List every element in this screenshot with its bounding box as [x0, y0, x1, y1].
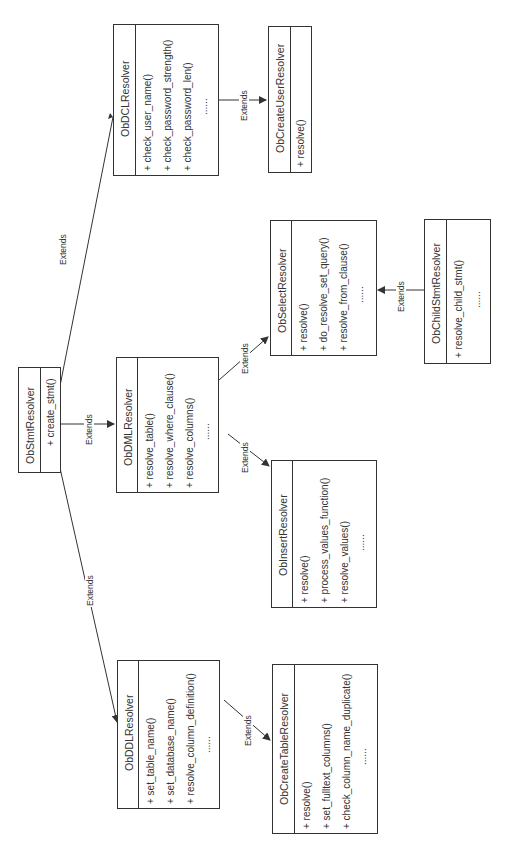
- edge-label-dml-insert: Extends: [240, 441, 250, 474]
- class-methods: + resolve() + do_resolve_set_query() + r…: [292, 221, 376, 355]
- class-ob-insert-resolver[interactable]: ObInsertResolver + resolve() + process_v…: [271, 460, 377, 608]
- class-name: ObCreateUserResolver: [274, 44, 286, 153]
- method: + set_fulltext_columns(): [321, 723, 333, 829]
- method-ellipsis: ......: [200, 423, 212, 440]
- uml-diagram-canvas: Extends Extends Extends Extends Extends …: [0, 0, 506, 843]
- class-header: ObDCLResolver: [114, 25, 136, 175]
- method-ellipsis: ......: [357, 748, 369, 765]
- method-ellipsis: ......: [355, 534, 367, 551]
- method: + resolve(): [295, 119, 307, 167]
- class-ob-child-stmt-resolver[interactable]: ObChildStmtResolver + resolve_child_stmt…: [424, 219, 491, 364]
- method: + resolve_columns(): [184, 398, 196, 488]
- class-name: ObDCLResolver: [119, 61, 131, 137]
- method: + set_table_name(): [145, 718, 157, 804]
- method: + resolve_column_definition(): [185, 673, 197, 804]
- method: + process_values_function(): [319, 478, 331, 603]
- method: + check_password_len(): [182, 62, 194, 171]
- method: + resolve_table(): [144, 413, 156, 488]
- class-name: ObDMLResolver: [122, 388, 134, 466]
- edge-label-childstmt-select: Extends: [396, 280, 406, 313]
- class-name: ObInsertResolver: [277, 494, 289, 576]
- class-ob-ddl-resolver[interactable]: ObDDLResolver + set_table_name() + set_d…: [117, 660, 220, 809]
- method: + do_resolve_set_query(): [318, 237, 330, 351]
- class-header: ObDDLResolver: [118, 661, 139, 808]
- method-ellipsis: ......: [471, 291, 483, 308]
- method: + set_database_name(): [165, 698, 177, 804]
- class-methods: + resolve_child_stmt() ......: [447, 220, 490, 363]
- class-header: ObChildStmtResolver: [425, 220, 447, 363]
- class-ob-dcl-resolver[interactable]: ObDCLResolver + check_user_name() + chec…: [113, 24, 219, 176]
- class-header: ObStmtResolver: [19, 368, 41, 472]
- method-ellipsis: ......: [354, 286, 366, 303]
- class-ob-create-user-resolver[interactable]: ObCreateUserResolver + resolve(): [268, 26, 312, 173]
- class-methods: + resolve() + set_fulltext_columns() + c…: [295, 665, 377, 833]
- class-name: ObChildStmtResolver: [430, 243, 442, 344]
- class-methods: + create_stmt(): [41, 368, 60, 472]
- class-ob-dml-resolver[interactable]: ObDMLResolver + resolve_table() + resolv…: [116, 357, 219, 493]
- edge-label-stmt-dml: Extends: [84, 413, 94, 446]
- method: + check_password_strength(): [162, 40, 174, 171]
- class-header: ObSelectResolver: [271, 221, 292, 355]
- method-ellipsis: ......: [198, 98, 210, 115]
- class-ob-create-table-resolver[interactable]: ObCreateTableResolver + resolve() + set_…: [272, 664, 378, 834]
- method: + resolve_where_clause(): [164, 373, 176, 488]
- method: + resolve(): [301, 781, 313, 829]
- class-header: ObCreateTableResolver: [273, 665, 295, 833]
- method: + resolve(): [298, 303, 310, 351]
- method: + check_column_name_duplicate(): [341, 674, 353, 829]
- edge-label-dml-select: Extends: [240, 342, 250, 375]
- class-methods: + resolve_table() + resolve_where_clause…: [138, 358, 218, 492]
- method: + resolve(): [299, 555, 311, 603]
- class-header: ObCreateUserResolver: [269, 27, 291, 172]
- method: + resolve_from_clause(): [338, 243, 350, 351]
- edge-label-dcl-createuser: Extends: [239, 89, 249, 122]
- class-name: ObCreateTableResolver: [278, 693, 290, 805]
- method: + resolve_values(): [339, 521, 351, 603]
- class-header: ObInsertResolver: [272, 461, 293, 607]
- edge-label-ddl-createtable: Extends: [243, 714, 253, 747]
- edge-label-stmt-ddl: Extends: [85, 574, 95, 607]
- inheritance-edges: [0, 0, 506, 843]
- class-name: ObStmtResolver: [24, 387, 36, 464]
- class-ob-select-resolver[interactable]: ObSelectResolver + resolve() + do_resolv…: [270, 220, 377, 356]
- class-methods: + set_table_name() + set_database_name()…: [139, 661, 219, 808]
- method: + check_user_name(): [142, 74, 154, 171]
- class-methods: + resolve() + process_values_function() …: [293, 461, 376, 607]
- class-name: ObSelectResolver: [276, 248, 288, 333]
- method: + create_stmt(): [45, 378, 57, 446]
- method-ellipsis: ......: [201, 736, 213, 753]
- class-header: ObDMLResolver: [117, 358, 138, 492]
- class-ob-stmt-resolver[interactable]: ObStmtResolver + create_stmt(): [18, 367, 61, 473]
- class-methods: + resolve(): [291, 27, 311, 172]
- class-methods: + check_user_name() + check_password_str…: [136, 25, 218, 175]
- edge-label-stmt-dcl: Extends: [58, 233, 68, 266]
- method: + resolve_child_stmt(): [453, 260, 465, 358]
- class-name: ObDDLResolver: [123, 695, 135, 771]
